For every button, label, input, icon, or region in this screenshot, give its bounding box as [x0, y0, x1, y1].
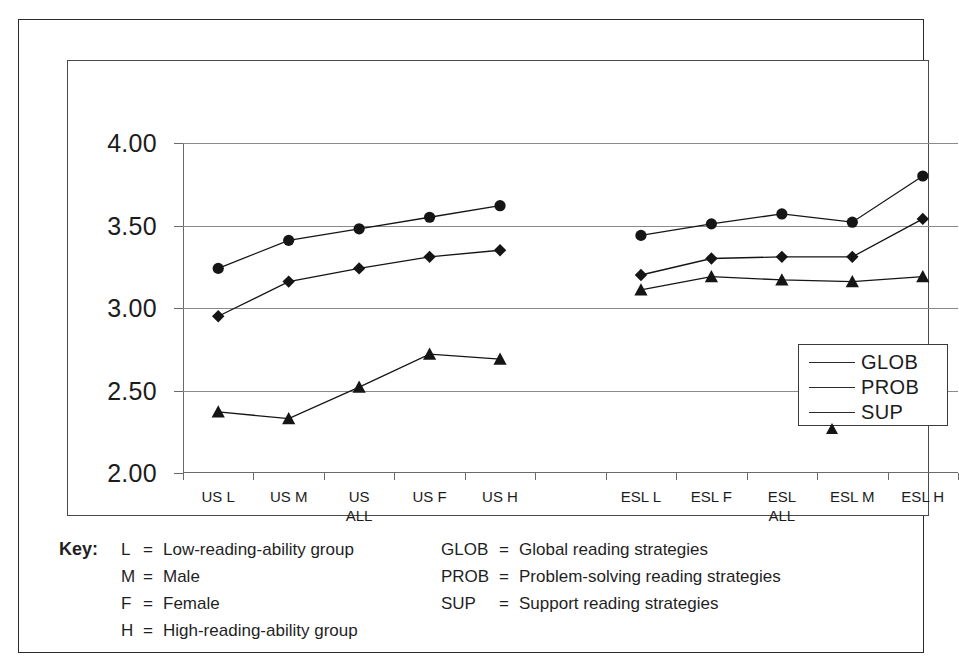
x-tick-mark [183, 473, 184, 480]
y-tick-label: 3.50 [107, 211, 157, 240]
y-tick-mark [174, 473, 183, 474]
data-point-marker [283, 235, 294, 246]
key-group-definition: Low-reading-ability group [163, 536, 354, 563]
figure-outer-border: 4.003.503.002.502.00 US LUS MUSALLUS FUS… [18, 19, 924, 653]
series-glob [212, 213, 929, 323]
legend-swatch-circle-icon [809, 381, 855, 395]
x-tick-mark [747, 473, 748, 480]
x-axis-label: ESL L [621, 487, 661, 506]
key-strategy-symbol: SUP [441, 590, 499, 617]
legend-label-sup: SUP [861, 401, 903, 424]
key-group-definition: High-reading-ability group [163, 617, 358, 644]
key-group-definition: Female [163, 590, 220, 617]
data-point-marker [846, 251, 858, 263]
key-strategy-row: PROB=Problem-solving reading strategies [441, 563, 781, 590]
key-strategy-row: SUP=Support reading strategies [441, 590, 781, 617]
key-group-row: F=Female [121, 590, 441, 617]
key-group-symbol: F [121, 590, 143, 617]
x-tick-mark [394, 473, 395, 480]
y-tick-label: 4.00 [107, 129, 157, 158]
series-line [641, 176, 923, 235]
data-point-marker [423, 348, 436, 360]
data-point-marker [423, 251, 435, 263]
key-strategy-symbol: PROB [441, 563, 499, 590]
key-strategy-symbol: GLOB [441, 536, 499, 563]
x-axis-label: USALL [346, 487, 373, 525]
key-group-equals: = [143, 617, 163, 644]
data-point-marker [705, 270, 718, 282]
y-tick-label: 3.00 [107, 294, 157, 323]
key-group-equals: = [143, 563, 163, 590]
data-point-marker [354, 223, 365, 234]
key-group-symbol: L [121, 536, 143, 563]
x-tick-mark [676, 473, 677, 480]
key-group-row: M=Male [121, 563, 441, 590]
x-tick-mark [535, 473, 536, 480]
data-point-marker [635, 269, 647, 281]
data-point-marker [635, 230, 646, 241]
plot-frame: 4.003.503.002.502.00 US LUS MUSALLUS FUS… [67, 60, 929, 516]
data-point-marker [776, 251, 788, 263]
data-point-marker [212, 310, 224, 322]
key-group-row: L=Low-reading-ability group [121, 536, 441, 563]
key-group-symbol: M [121, 563, 143, 590]
y-tick-mark [174, 391, 183, 392]
key-strategy-equals: = [499, 536, 519, 563]
x-tick-mark [888, 473, 889, 480]
x-tick-mark [606, 473, 607, 480]
key-column-strategies: GLOB=Global reading strategiesPROB=Probl… [441, 536, 781, 644]
series-line [218, 250, 500, 316]
x-tick-mark [253, 473, 254, 480]
x-axis-label: ESL H [901, 487, 944, 506]
data-point-marker [705, 252, 717, 264]
key-title: Key: [59, 536, 121, 644]
legend-entry-prob: PROB [809, 375, 947, 400]
x-axis-label: ESL M [830, 487, 874, 506]
series-line [641, 219, 923, 275]
data-point-marker [847, 217, 858, 228]
key-group-equals: = [143, 590, 163, 617]
data-point-marker [494, 200, 505, 211]
key-block: Key: L=Low-reading-ability groupM=MaleF=… [59, 536, 927, 644]
series-line [218, 206, 500, 269]
key-strategy-equals: = [499, 590, 519, 617]
legend-label-prob: PROB [861, 376, 919, 399]
data-point-marker [706, 218, 717, 229]
data-point-marker [212, 405, 225, 417]
x-tick-mark [817, 473, 818, 480]
data-point-marker [916, 270, 929, 282]
data-point-marker [494, 244, 506, 256]
data-point-marker [213, 263, 224, 274]
y-tick-mark [174, 143, 183, 144]
data-point-marker [282, 275, 294, 287]
data-point-marker [776, 208, 787, 219]
data-point-marker [424, 212, 435, 223]
y-tick-label: 2.50 [107, 376, 157, 405]
x-axis-label: US H [482, 487, 518, 506]
y-tick-mark [174, 308, 183, 309]
data-point-marker [353, 381, 366, 393]
legend-entry-glob: GLOB [809, 350, 947, 375]
x-tick-mark [324, 473, 325, 480]
key-strategy-definition: Problem-solving reading strategies [519, 563, 781, 590]
data-point-marker [353, 262, 365, 274]
key-group-definition: Male [163, 563, 200, 590]
series-prob [213, 170, 929, 274]
x-axis-label: US M [270, 487, 308, 506]
data-point-marker [917, 213, 929, 225]
key-strategy-row: GLOB=Global reading strategies [441, 536, 781, 563]
x-tick-mark [465, 473, 466, 480]
key-group-symbol: H [121, 617, 143, 644]
key-group-equals: = [143, 536, 163, 563]
chart-legend: GLOB PROB SUP [798, 344, 948, 426]
legend-label-glob: GLOB [861, 351, 918, 374]
key-column-groups: L=Low-reading-ability groupM=MaleF=Femal… [121, 536, 441, 644]
data-point-marker [917, 170, 928, 181]
key-group-row: H=High-reading-ability group [121, 617, 441, 644]
y-tick-label: 2.00 [107, 459, 157, 488]
key-strategy-definition: Support reading strategies [519, 590, 718, 617]
legend-swatch-diamond-icon [809, 356, 855, 370]
legend-swatch-triangle-icon [809, 406, 855, 420]
x-axis-label: US F [412, 487, 446, 506]
